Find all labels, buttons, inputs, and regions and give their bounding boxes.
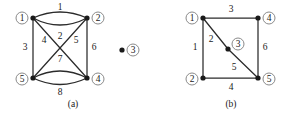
caption-panel-b: (b) bbox=[225, 99, 236, 110]
edge-label-b-3: 3 bbox=[229, 4, 234, 14]
vertex-dot-b-3[interactable] bbox=[225, 46, 230, 51]
panel-a: 1 2 3 4 5 6 7 8 1 2 bbox=[16, 2, 139, 110]
edge-label-a-6: 6 bbox=[92, 42, 97, 52]
vertex-label-b-2: 2 bbox=[190, 74, 195, 84]
edge-label-a-4: 4 bbox=[42, 35, 47, 45]
vertex-dot-a-1[interactable] bbox=[30, 15, 35, 20]
edge-b-2[interactable] bbox=[203, 18, 228, 49]
edge-a-7[interactable] bbox=[33, 71, 87, 78]
vertex-dot-b-1[interactable] bbox=[200, 15, 205, 20]
vertex-label-b-4: 4 bbox=[267, 13, 272, 23]
panel-b: 1 2 3 4 5 6 1 4 bbox=[186, 4, 275, 110]
vertex-dot-b-5[interactable] bbox=[255, 75, 260, 80]
edge-label-b-6: 6 bbox=[263, 42, 268, 52]
panel-b-edges bbox=[203, 18, 258, 78]
edge-label-a-1: 1 bbox=[58, 2, 63, 12]
vertex-dot-b-2[interactable] bbox=[200, 75, 205, 80]
vertex-label-a-1: 1 bbox=[20, 13, 25, 23]
caption-panel-a: (a) bbox=[68, 99, 79, 110]
edge-label-b-2: 2 bbox=[209, 34, 214, 44]
vertex-label-a-3: 3 bbox=[131, 45, 136, 55]
vertex-label-b-1: 1 bbox=[190, 13, 195, 23]
edge-a-8[interactable] bbox=[33, 78, 87, 85]
vertex-a-3-isolated[interactable]: 3 bbox=[119, 44, 139, 56]
edge-label-b-4: 4 bbox=[229, 82, 234, 92]
vertex-label-a-4: 4 bbox=[96, 74, 101, 84]
vertex-b-3[interactable]: 3 bbox=[225, 38, 244, 52]
edge-label-a-8: 8 bbox=[58, 87, 63, 97]
edge-label-a-2: 2 bbox=[58, 31, 63, 41]
graph-canvas: 1 2 3 4 5 6 7 8 1 2 bbox=[0, 0, 291, 114]
edge-label-a-5: 5 bbox=[74, 35, 79, 45]
vertex-label-a-5: 5 bbox=[20, 74, 25, 84]
vertex-label-b-3: 3 bbox=[236, 39, 241, 49]
vertex-dot-a-3[interactable] bbox=[119, 47, 124, 52]
edge-label-a-3: 3 bbox=[23, 42, 28, 52]
graph-figure: 1 2 3 4 5 6 7 8 1 2 bbox=[0, 0, 291, 114]
edge-label-b-1: 1 bbox=[193, 42, 198, 52]
vertex-dot-a-4[interactable] bbox=[84, 75, 89, 80]
panel-a-edges bbox=[33, 12, 87, 85]
edge-label-b-5: 5 bbox=[232, 62, 237, 72]
edge-label-a-7: 7 bbox=[58, 54, 63, 64]
vertex-dot-a-2[interactable] bbox=[84, 15, 89, 20]
vertex-dot-a-5[interactable] bbox=[30, 75, 35, 80]
vertex-dot-b-4[interactable] bbox=[255, 15, 260, 20]
vertex-label-a-2: 2 bbox=[96, 13, 101, 23]
edge-a-1[interactable] bbox=[33, 12, 87, 18]
edge-a-2[interactable] bbox=[33, 18, 87, 25]
vertex-label-b-5: 5 bbox=[267, 74, 272, 84]
